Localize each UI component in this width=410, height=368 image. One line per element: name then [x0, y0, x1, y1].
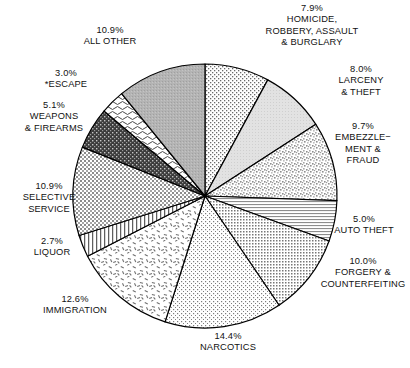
pie-label-percent-larceny: 8.0% — [316, 64, 406, 75]
pie-label-percent-narcotics: 14.4% — [173, 331, 283, 342]
pie-label-name-autotheft-line-1: AUTO THEFT — [318, 225, 410, 236]
pie-label-name-weapons-line-1: WEAPONS — [2, 111, 106, 122]
pie-label-liquor: 2.7%LIQUOR — [10, 236, 94, 259]
pie-label-allother: 10.9%ALL OTHER — [57, 25, 163, 48]
pie-label-name-selective-line-1: SELECTIVE — [2, 192, 96, 203]
pie-label-name-forgery-line-2: COUNTERFEITING — [316, 279, 410, 290]
pie-label-name-homicide-line-2: ROBBERY, ASSAULT — [237, 26, 387, 37]
pie-label-percent-allother: 10.9% — [57, 25, 163, 36]
pie-label-weapons: 5.1%WEAPONS& FIREARMS — [2, 100, 106, 134]
pie-chart: 7.9%HOMICIDE,ROBBERY, ASSAULT& BURGLARY8… — [0, 0, 410, 368]
pie-label-percent-escape: 3.0% — [18, 68, 114, 79]
pie-label-percent-embezzlement: 9.7% — [319, 121, 407, 132]
pie-label-name-homicide-line-3: & BURGLARY — [237, 37, 387, 48]
pie-label-name-liquor-line-1: LIQUOR — [10, 247, 94, 258]
pie-label-homicide: 7.9%HOMICIDE,ROBBERY, ASSAULT& BURGLARY — [237, 3, 387, 49]
pie-label-immigration: 12.6%IMMIGRATION — [20, 294, 130, 317]
pie-label-percent-selective: 10.9% — [2, 181, 96, 192]
pie-label-autotheft: 5.0%AUTO THEFT — [318, 214, 410, 237]
pie-label-name-larceny-line-1: LARCENY — [316, 75, 406, 86]
pie-label-name-narcotics-line-1: NARCOTICS — [173, 342, 283, 353]
pie-label-percent-autotheft: 5.0% — [318, 214, 410, 225]
pie-label-embezzlement: 9.7%EMBEZZLE−MENT &FRAUD — [319, 121, 407, 167]
pie-label-name-weapons-line-2: & FIREARMS — [2, 123, 106, 134]
pie-slices-group — [73, 64, 337, 328]
pie-label-forgery: 10.0%FORGERY &COUNTERFEITING — [316, 256, 410, 290]
pie-label-selective: 10.9%SELECTIVESERVICE — [2, 181, 96, 215]
pie-label-name-selective-line-2: SERVICE — [2, 204, 96, 215]
pie-label-name-allother-line-1: ALL OTHER — [57, 36, 163, 47]
pie-label-name-embezzlement-line-3: FRAUD — [319, 155, 407, 166]
pie-label-percent-weapons: 5.1% — [2, 100, 106, 111]
pie-label-percent-immigration: 12.6% — [20, 294, 130, 305]
pie-label-percent-liquor: 2.7% — [10, 236, 94, 247]
pie-label-name-forgery-line-1: FORGERY & — [316, 267, 410, 278]
pie-label-name-embezzlement-line-1: EMBEZZLE− — [319, 132, 407, 143]
pie-label-percent-forgery: 10.0% — [316, 256, 410, 267]
pie-label-name-homicide-line-1: HOMICIDE, — [237, 14, 387, 25]
pie-label-percent-homicide: 7.9% — [237, 3, 387, 14]
pie-label-escape: 3.0%*ESCAPE — [18, 68, 114, 91]
pie-label-name-embezzlement-line-2: MENT & — [319, 144, 407, 155]
pie-label-larceny: 8.0%LARCENY& THEFT — [316, 64, 406, 98]
pie-label-name-larceny-line-2: & THEFT — [316, 87, 406, 98]
pie-label-name-immigration-line-1: IMMIGRATION — [20, 305, 130, 316]
pie-label-name-escape-line-1: *ESCAPE — [18, 79, 114, 90]
pie-label-narcotics: 14.4%NARCOTICS — [173, 331, 283, 354]
